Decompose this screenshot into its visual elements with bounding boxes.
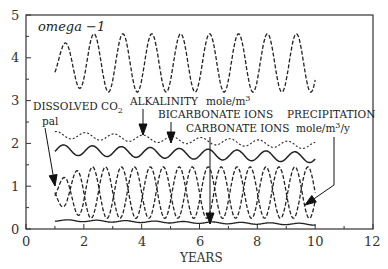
chart-title: omega −1 [38, 19, 105, 34]
x-tick-label: 8 [253, 234, 261, 249]
y-tick-label: 0 [11, 222, 19, 237]
x-tick-label: 4 [138, 234, 146, 249]
series-line [55, 34, 315, 92]
label-bicarbonate-ions: BICARBONATE IONS [158, 108, 273, 120]
chart: 0 1 2 3 4 5 0 2 4 6 8 10 12 YEARS omega … [0, 0, 388, 269]
series-line [55, 167, 315, 218]
y-tick-label: 4 [11, 50, 19, 65]
label-dissolved-co2: DISSOLVED CO2 [33, 100, 123, 115]
x-tick-label: 10 [307, 234, 324, 249]
x-tick-label: 2 [80, 234, 88, 249]
x-axis-label: YEARS [179, 251, 223, 265]
y-tick-label: 2 [11, 136, 19, 151]
label-carbonate-ions: CARBONATE IONS [186, 122, 289, 134]
x-tick-label: 6 [196, 234, 204, 249]
label-precip-units: mole/m3/y [296, 121, 350, 134]
label-mole-m3: mole/m3 [206, 94, 250, 107]
x-tick-label: 12 [364, 234, 381, 249]
y-tick-label: 3 [11, 93, 19, 108]
y-tick-label: 5 [11, 8, 19, 23]
label-precipitation: PRECIPITATION [287, 108, 375, 120]
label-alkalinity: ALKALINITY [129, 95, 199, 107]
y-tick-label: 1 [11, 179, 19, 194]
x-tick-label: 0 [22, 234, 30, 249]
label-pal: pal [42, 115, 59, 127]
series-line [55, 145, 315, 163]
series-line [55, 220, 315, 225]
